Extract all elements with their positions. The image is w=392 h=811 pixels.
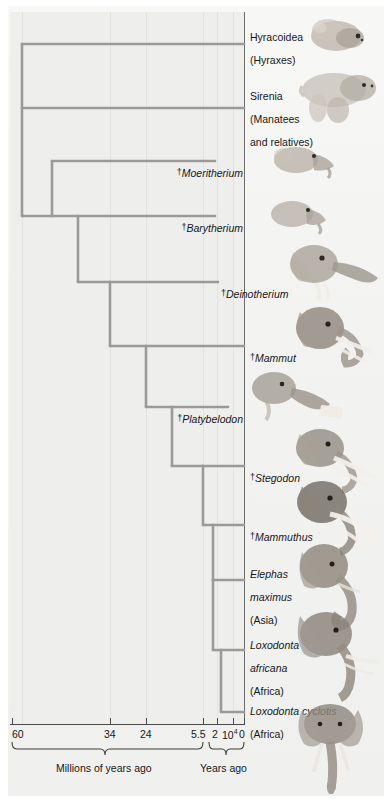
taxon-name-barytherium: Barytherium <box>186 222 243 234</box>
gridline-5-5 <box>203 12 204 724</box>
axis-label-34: 34 <box>104 728 116 740</box>
axis-tick-10k <box>233 718 234 724</box>
axis-tick-34 <box>110 718 111 724</box>
taxon-label-sirenia: Sirenia (Manatees and relatives) <box>250 79 313 160</box>
taxon-name-sirenia: Sirenia <box>250 91 313 103</box>
gridline-24 <box>146 12 147 724</box>
taxon-name-hyracoidea: Hyracoidea <box>250 32 303 44</box>
taxon-label-hyracoidea: Hyracoidea (Hyraxes) <box>250 20 303 78</box>
axis-caption-millions: Millions of years ago <box>56 762 152 774</box>
taxon-name-deinotherium: Deinotherium <box>226 288 288 300</box>
axis-label-24: 24 <box>140 728 152 740</box>
axis-label-10k: 104 <box>222 728 238 741</box>
gridline-10k <box>233 12 234 724</box>
taxon-common-hyracoidea: (Hyraxes) <box>250 55 303 67</box>
axis-label-10k-exponent: 4 <box>234 728 238 735</box>
gridline-34 <box>110 12 111 724</box>
brace-years <box>209 742 244 755</box>
present-day-axis-line <box>244 12 245 724</box>
gridline-2 <box>217 12 218 724</box>
axis-label-2: 2 <box>212 728 218 740</box>
axis-tick-24 <box>146 718 147 724</box>
taxon-label-deinotherium: †Deinotherium <box>221 276 288 300</box>
taxon-label-mammut: †Mammut <box>250 340 296 364</box>
axis-tick-0 <box>244 718 245 724</box>
taxon-name-stegodon: Stegodon <box>255 472 300 484</box>
axis-tick-60 <box>12 718 13 724</box>
brace-millions <box>12 742 203 755</box>
taxon-label-moeritherium: †Moeritherium <box>120 155 243 179</box>
taxon-common-sirenia-1: (Manatees <box>250 114 313 126</box>
time-axis-rule <box>10 724 245 725</box>
axis-label-5-5: 5.5 <box>191 728 206 740</box>
taxon-region-elephas: (Asia) <box>250 615 292 627</box>
taxon-genus-elephas: Elephas <box>250 569 292 581</box>
taxon-label-barytherium: †Barytherium <box>120 210 243 234</box>
phylogenetic-tree-figure: Hyracoidea (Hyraxes) Sirenia (Manatees a… <box>0 0 392 811</box>
taxon-label-elephas-maximus: Elephas maximus (Asia) <box>250 557 292 638</box>
taxon-species-maximus: maximus <box>250 592 292 604</box>
taxon-name-loxodonta-cyclotis: Loxodonta cyclotis <box>250 706 336 718</box>
axis-label-10k-mantissa: 10 <box>222 729 234 741</box>
taxon-species-africana: africana <box>250 663 299 675</box>
taxon-region-cyclotis: (Africa) <box>250 729 336 741</box>
axis-tick-5-5 <box>203 718 204 724</box>
taxon-name-mammut: Mammut <box>255 352 296 364</box>
taxon-label-platybelodon: †Platybelodon <box>120 401 243 425</box>
axis-label-60: 60 <box>12 728 24 740</box>
axis-braces <box>0 740 392 762</box>
taxon-name-mammuthus: Mammuthus <box>255 531 313 543</box>
taxon-label-stegodon: †Stegodon <box>250 460 300 484</box>
plot-area <box>10 12 244 724</box>
axis-tick-2 <box>217 718 218 724</box>
taxon-label-mammuthus: †Mammuthus <box>250 519 313 543</box>
taxon-genus-loxodonta: Loxodonta <box>250 640 299 652</box>
taxon-name-platybelodon: Platybelodon <box>182 413 243 425</box>
taxon-common-sirenia-2: and relatives) <box>250 137 313 149</box>
gridline-60 <box>22 12 23 724</box>
taxon-name-moeritherium: Moeritherium <box>182 167 243 179</box>
axis-label-0: 0 <box>239 728 245 740</box>
axis-caption-years: Years ago <box>200 762 247 774</box>
